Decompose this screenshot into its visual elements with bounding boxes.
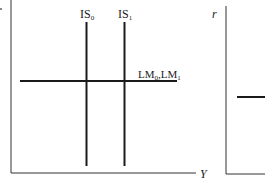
- is0-label-sub: 0: [91, 14, 95, 22]
- lm1-label-sub: 1: [177, 74, 181, 82]
- is0-label-base: IS: [80, 7, 91, 21]
- right-y-axis-label: r: [212, 8, 217, 20]
- is1-label-base: IS: [118, 7, 129, 21]
- is1-label-sub: 1: [129, 14, 133, 22]
- is1-label: IS1: [118, 8, 132, 20]
- lm0-label-base: LM: [138, 68, 155, 80]
- lm1-label-base: LM: [161, 68, 178, 80]
- clipped-axis-label-mark: [0, 8, 2, 10]
- islm-diagram: [0, 0, 265, 186]
- is0-label: IS0: [80, 8, 94, 20]
- left-x-axis-label: Y: [200, 168, 207, 180]
- lm-label: LM0,LM1: [138, 68, 181, 80]
